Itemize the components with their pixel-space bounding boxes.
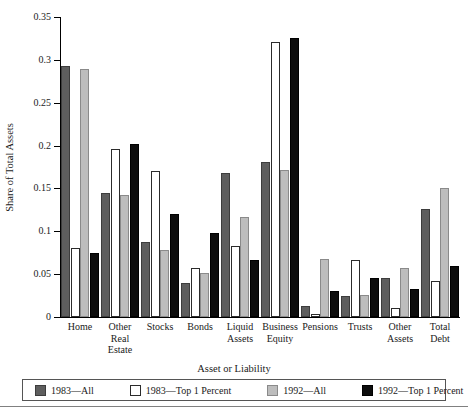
y-axis-tick-label: 0.05 [34, 269, 52, 279]
y-axis-tick-label: 0.2 [39, 141, 52, 151]
y-axis-tick [54, 188, 60, 189]
legend-label: 1992—Top 1 Percent [378, 385, 463, 396]
x-axis-title: Asset or Liability [0, 363, 468, 374]
bar [141, 242, 150, 317]
x-axis-tick-label: TotalDebt [409, 321, 468, 344]
bar [351, 260, 360, 317]
y-axis-tick [54, 146, 60, 147]
bar [370, 278, 379, 317]
legend-swatch [362, 385, 373, 396]
legend-swatch [267, 385, 278, 396]
y-axis-tick-label: 0.15 [34, 183, 52, 193]
bar [391, 308, 400, 317]
bar-group [141, 17, 179, 317]
bar-group [61, 17, 99, 317]
y-axis-tick [54, 274, 60, 275]
bar [160, 250, 169, 317]
bar [360, 295, 369, 317]
x-axis-tick-label-line: Real [89, 333, 151, 345]
x-axis-tick-label-line: Equity [249, 333, 311, 345]
bar-group [181, 17, 219, 317]
bar-group [301, 17, 339, 317]
bar [320, 259, 329, 317]
bar [410, 289, 419, 317]
footer-rule [0, 406, 468, 407]
bar [111, 149, 120, 317]
y-axis-tick [54, 17, 60, 18]
bar [341, 296, 350, 317]
bar [421, 209, 430, 317]
bar-group [221, 17, 259, 317]
bar [181, 283, 190, 317]
legend-item: 1983—Top 1 Percent [130, 385, 231, 396]
bar [440, 188, 449, 317]
bar [240, 217, 249, 317]
bar [130, 144, 139, 317]
y-axis-tick-label: 0.25 [34, 98, 52, 108]
y-axis-tick-label: 0.35 [34, 12, 52, 22]
bar [400, 268, 409, 317]
legend-swatch [130, 385, 141, 396]
y-axis-tick [54, 103, 60, 104]
y-axis-tick-label: 0.3 [39, 55, 52, 65]
bar-group [101, 17, 139, 317]
bar [61, 66, 70, 317]
bar [170, 214, 179, 317]
bar [280, 170, 289, 317]
x-axis-tick-label-line: Estate [89, 344, 151, 356]
bar-group [341, 17, 379, 317]
bar-group [421, 17, 459, 317]
legend-item: 1992—All [267, 385, 326, 396]
x-axis-tick-label-line: Debt [409, 333, 468, 345]
legend-label: 1992—All [283, 385, 326, 396]
bar [431, 281, 440, 317]
legend-label: 1983—All [51, 385, 94, 396]
bar [271, 42, 280, 317]
y-axis-tick-label: 0.1 [39, 226, 52, 236]
y-axis-title-text: Share of Total Assets [4, 123, 15, 212]
bar [80, 69, 89, 317]
bar [71, 248, 80, 317]
bar [120, 195, 129, 317]
x-axis-tick-label-line: Total [409, 321, 468, 333]
bar [311, 314, 320, 317]
y-axis-tick [54, 317, 60, 318]
y-axis-tick [54, 60, 60, 61]
chart-legend: 1983—All1983—Top 1 Percent1992—All1992—T… [22, 379, 446, 401]
bar [330, 291, 339, 317]
bar-group [381, 17, 419, 317]
bar [101, 193, 110, 317]
legend-item: 1992—Top 1 Percent [362, 385, 463, 396]
y-axis-title: Share of Total Assets [2, 17, 16, 317]
x-axis-line [60, 317, 460, 318]
bar [290, 38, 299, 317]
bar [151, 171, 160, 317]
y-axis-tick [54, 231, 60, 232]
bar-group [261, 17, 299, 317]
bar [381, 278, 390, 317]
bar [200, 273, 209, 317]
bar [231, 246, 240, 317]
legend-item: 1983—All [35, 385, 94, 396]
legend-label: 1983—Top 1 Percent [146, 385, 231, 396]
bar [250, 260, 259, 317]
plot-area: 00.050.10.150.20.250.30.35 [60, 17, 460, 317]
chart-figure: Share of Total Assets 00.050.10.150.20.2… [0, 0, 468, 411]
bar [191, 268, 200, 317]
bar [221, 173, 230, 317]
legend-swatch [35, 385, 46, 396]
bar [90, 253, 99, 317]
bar [210, 233, 219, 317]
bar [301, 306, 310, 317]
bar [261, 162, 270, 317]
bar [450, 266, 459, 317]
